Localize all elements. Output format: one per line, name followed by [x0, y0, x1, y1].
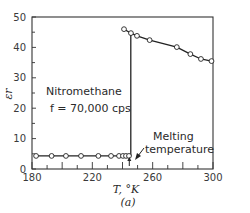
y-tick-label: 10 [13, 133, 26, 144]
x-tick-label: 260 [143, 172, 162, 183]
x-tick-label: 220 [83, 172, 102, 183]
data-point [209, 59, 214, 64]
data-point [79, 154, 84, 159]
annotations: εr Nitromethane f = 70,000 cps Melting t… [2, 85, 214, 209]
x-tick-label: 180 [22, 172, 41, 183]
data-point [147, 38, 152, 43]
data-point [129, 31, 134, 36]
melting-label-line1: Melting [153, 130, 194, 143]
chart: 01020304050180220260300 εr Nitromethane … [0, 0, 250, 213]
x-axis-label: T, °K [113, 183, 140, 196]
substance-label: Nitromethane [46, 85, 122, 98]
y-tick-label: 50 [13, 12, 26, 23]
data-point [188, 52, 193, 57]
y-tick-label: 40 [13, 42, 26, 53]
frequency-label: f = 70,000 cps [50, 102, 131, 115]
x-tick-label: 300 [203, 172, 222, 183]
data-point [199, 57, 204, 62]
y-axis-label: εr [2, 88, 15, 100]
y-tick-label: 20 [13, 103, 26, 114]
data-point [49, 154, 54, 159]
melting-arrow-head-icon [135, 153, 141, 160]
data-point [34, 154, 39, 159]
data-point [96, 154, 101, 159]
panel-label: (a) [120, 196, 135, 209]
data-point [64, 154, 69, 159]
data-point [109, 154, 114, 159]
data-point [122, 27, 127, 32]
melting-label-line2: temperature [145, 143, 214, 156]
data-point [135, 33, 140, 38]
data-point [174, 45, 179, 50]
y-tick-label: 30 [13, 72, 26, 83]
